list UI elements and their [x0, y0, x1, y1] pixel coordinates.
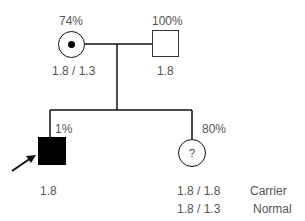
daughter-option-1-genotype: 1.8 / 1.8 [177, 184, 220, 198]
father-genotype: 1.8 [157, 64, 174, 78]
proband-arrow-icon [12, 155, 36, 171]
father-percent: 100% [152, 14, 183, 28]
father-symbol [152, 30, 179, 57]
mother-genotype: 1.8 / 1.3 [52, 64, 95, 78]
daughter-symbol: ? [178, 139, 206, 167]
mother-percent: 74% [59, 14, 83, 28]
carrier-dot-icon [68, 41, 75, 48]
son-genotype: 1.8 [40, 184, 57, 198]
son-symbol [38, 137, 66, 165]
daughter-option-2-status: Normal [253, 202, 292, 216]
son-percent: 1% [55, 122, 72, 136]
unknown-mark: ? [189, 147, 195, 159]
daughter-percent: 80% [202, 122, 226, 136]
daughter-option-2-genotype: 1.8 / 1.3 [177, 202, 220, 216]
mother-symbol [58, 31, 85, 58]
daughter-option-1-status: Carrier [250, 184, 287, 198]
